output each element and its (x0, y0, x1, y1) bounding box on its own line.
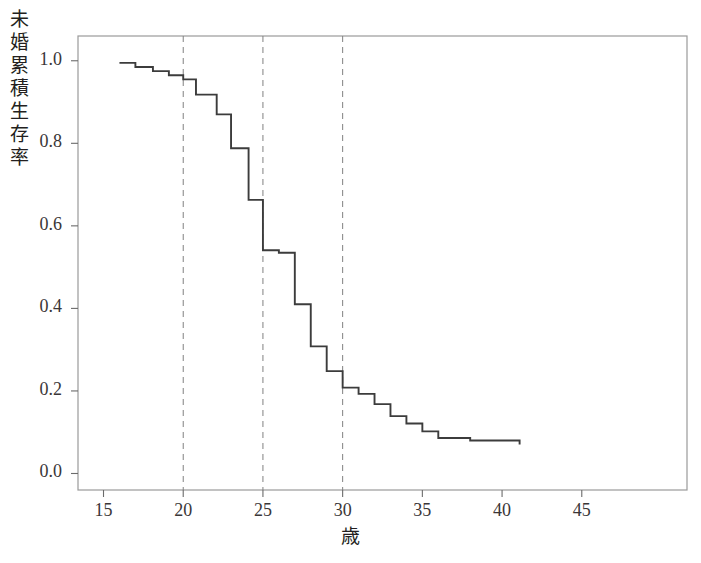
y-tick-label: 0.8 (16, 131, 62, 152)
y-tick-label: 0.2 (16, 379, 62, 400)
series-line-0 (119, 63, 519, 445)
y-axis-label-char: 生 (6, 100, 32, 123)
y-axis-label-char: 未 (6, 8, 32, 31)
x-axis-label: 歳 (0, 521, 701, 548)
y-tick-label: 0.6 (16, 214, 62, 235)
x-tick-label: 45 (562, 500, 602, 521)
x-tick-label: 30 (323, 500, 363, 521)
plot-frame (78, 36, 687, 490)
x-tick-label: 35 (402, 500, 442, 521)
x-tick-label: 15 (84, 500, 124, 521)
y-tick-label: 0.4 (16, 296, 62, 317)
y-axis-label-char: 積 (6, 77, 32, 100)
y-tick-label: 1.0 (16, 49, 62, 70)
y-tick-label: 0.0 (16, 461, 62, 482)
x-tick-label: 20 (163, 500, 203, 521)
x-tick-label: 25 (243, 500, 283, 521)
chart-figure: 未 婚 累 積 生 存 率 歳 152025303540450.00.20.40… (0, 0, 701, 563)
plot-area (0, 0, 701, 563)
x-tick-label: 40 (482, 500, 522, 521)
